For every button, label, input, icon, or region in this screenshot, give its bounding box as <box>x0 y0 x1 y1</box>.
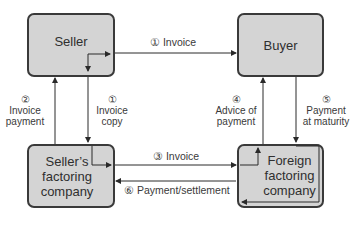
label-invoice-copy-line1: Invoice <box>92 105 132 116</box>
label-invoice-copy-line2: copy <box>92 116 132 127</box>
label-invoice-copy: ① Invoice copy <box>92 94 132 127</box>
label-advice-of-payment: ④ Advice of payment <box>211 94 261 127</box>
step-5-number: ⑤ <box>298 94 354 105</box>
label-invoice-payment-line2: payment <box>2 116 48 127</box>
label-invoice-payment: ② Invoice payment <box>2 94 48 127</box>
label-payment-settlement: ⑥ Payment/settlement <box>124 185 230 196</box>
step-2-number: ② <box>2 94 48 105</box>
label-invoice-payment-line1: Invoice <box>2 105 48 116</box>
label-invoice-factoring: ③ Invoice <box>153 151 199 162</box>
label-maturity-line2: at maturity <box>298 116 354 127</box>
label-payment-at-maturity: ⑤ Payment at maturity <box>298 94 354 127</box>
label-maturity-line1: Payment <box>298 105 354 116</box>
step-4-number: ④ <box>211 94 261 105</box>
label-advice-line2: payment <box>211 116 261 127</box>
step-1-number: ① <box>92 94 132 105</box>
label-advice-line1: Advice of <box>211 105 261 116</box>
label-invoice-seller-buyer: ① Invoice <box>150 37 196 48</box>
